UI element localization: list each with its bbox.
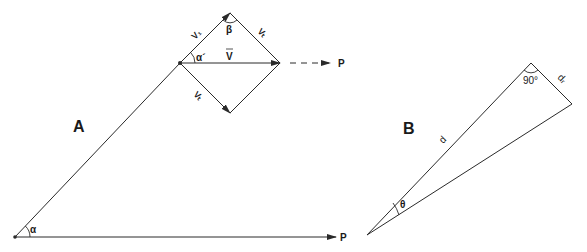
side-d-label: d [437, 134, 449, 146]
right-angle-arc [524, 70, 538, 73]
vector-vt-lower-label: Vₜ [192, 89, 205, 102]
vector-vt-lower-arrow [180, 63, 230, 113]
theta-label: θ [400, 199, 405, 210]
hypotenuse-line [367, 104, 572, 235]
trajectory-line [15, 63, 180, 237]
vector-v1-lower-line [230, 63, 280, 113]
vector-v-label: V [226, 51, 233, 62]
beta-label: β [226, 24, 232, 35]
direction-p-label-lower: P [340, 232, 347, 243]
side-dr-label: dᵣ [556, 72, 570, 86]
alpha-label: α [30, 224, 37, 235]
alpha-prime-arc [191, 52, 195, 63]
side-d-line [367, 63, 531, 235]
panel-b: B 90° d dᵣ θ [367, 63, 572, 235]
right-angle-label: 90° [523, 75, 538, 86]
alpha-prime-label: α´ [196, 52, 205, 63]
diagram-canvas: A α α´ β V V₁ Vₜ Vₜ P P B 90° d dᵣ θ [0, 0, 587, 252]
vector-v1-label: V₁ [189, 27, 203, 41]
panel-a-label: A [73, 118, 85, 135]
vector-vt-upper-label: Vₜ [256, 26, 269, 39]
vector-vt-upper-line [230, 13, 280, 63]
panel-b-label: B [403, 120, 415, 137]
beta-arc [223, 20, 237, 23]
panel-a: A α α´ β V V₁ Vₜ Vₜ P P [13, 13, 347, 243]
direction-p-label-upper: P [338, 58, 345, 69]
